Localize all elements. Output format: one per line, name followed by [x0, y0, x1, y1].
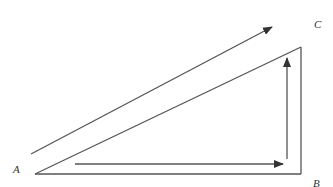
vertex-label-b: B [313, 177, 320, 187]
direct-path-arrow [31, 27, 272, 154]
vertex-label-a: A [13, 163, 20, 175]
triangle-diagram [0, 0, 333, 187]
vertex-label-c: C [314, 18, 321, 30]
side-ac [35, 47, 301, 174]
diagram-canvas: A B C [0, 0, 333, 187]
